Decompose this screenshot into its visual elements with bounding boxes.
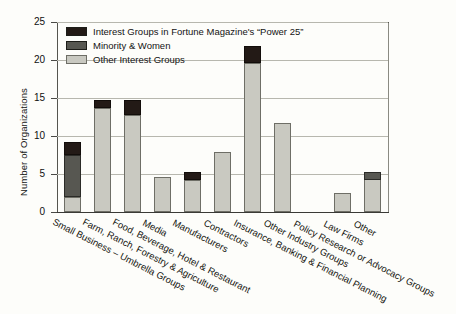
bar-segment — [214, 152, 231, 212]
plot-frame-bottom — [57, 212, 389, 213]
y-tick-mark — [51, 60, 57, 61]
bar-segment — [364, 179, 381, 212]
legend-swatch — [66, 55, 87, 64]
bar-segment — [64, 142, 81, 155]
y-tick-label: 5 — [21, 168, 45, 179]
bar-segment — [364, 172, 381, 180]
bar-segment — [274, 123, 291, 212]
plot-frame-right — [388, 22, 389, 213]
legend-label: Minority & Women — [93, 40, 170, 51]
bar-segment — [64, 155, 81, 197]
y-tick-mark — [51, 136, 57, 137]
legend-label: Interest Groups in Fortune Magazine's “P… — [93, 26, 303, 37]
gridline — [57, 22, 388, 23]
bar-segment — [244, 63, 261, 212]
y-tick-label: 20 — [21, 54, 45, 65]
bar-segment — [184, 180, 201, 212]
y-tick-mark — [51, 98, 57, 99]
y-axis-title: Number of Organizations — [18, 88, 29, 196]
bar-segment — [94, 108, 111, 212]
legend-swatch — [66, 41, 87, 50]
y-tick-mark — [51, 174, 57, 175]
bar-segment — [64, 197, 81, 212]
plot-frame-left — [57, 22, 58, 213]
y-tick-label: 10 — [21, 130, 45, 141]
y-tick-mark — [51, 212, 57, 213]
chart-legend: Interest Groups in Fortune Magazine's “P… — [66, 26, 326, 70]
y-tick-label: 15 — [21, 92, 45, 103]
bar-chart: Number of Organizations 0510152025 Inter… — [0, 0, 456, 314]
legend-label: Other Interest Groups — [93, 54, 185, 65]
y-tick-label: 25 — [21, 16, 45, 27]
y-tick-label: 0 — [21, 206, 45, 217]
bar-segment — [184, 172, 201, 180]
bar-segment — [124, 100, 141, 115]
bar-segment — [334, 193, 351, 212]
gridline — [57, 98, 388, 99]
y-tick-mark — [51, 22, 57, 23]
bar-segment — [94, 100, 111, 108]
bar-segment — [124, 115, 141, 212]
bar-segment — [154, 177, 171, 212]
legend-swatch — [66, 27, 87, 36]
